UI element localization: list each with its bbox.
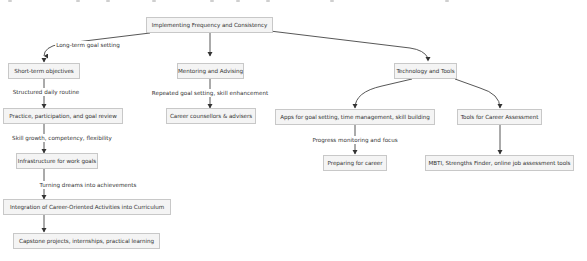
node-mentoring: Mentoring and Advising (177, 63, 244, 79)
node-mbti-tools: MBTI, Strengths Finder, online job asses… (425, 155, 574, 171)
flowchart: Implementing Frequency and Consistency S… (0, 0, 587, 261)
edge-tech-apps (355, 79, 412, 108)
edge-label-repeated-goal: Repeated goal setting, skill enhancement (151, 89, 269, 97)
edges-layer (0, 0, 587, 261)
node-capstone: Capstone projects, internships, practica… (13, 233, 160, 249)
node-preparing-for-career: Preparing for career (323, 155, 387, 171)
node-technology-tools: Technology and Tools (394, 63, 457, 79)
edge-label-long-term: Long-term goal setting (55, 41, 121, 49)
node-apps: Apps for goal setting, time management, … (275, 109, 435, 125)
edge-label-progress: Progress monitoring and focus (311, 136, 398, 144)
node-integration: Integration of Career-Oriented Activitie… (3, 199, 171, 215)
edge-label-skill-growth: Skill growth, competency, flexibility (11, 134, 113, 142)
edge-label-structured-routine: Structured daily routine (12, 88, 80, 96)
node-career-counsellors: Career counsellors & advisers (166, 108, 256, 124)
edge-label-dreams: Turning dreams into achievements (39, 181, 138, 189)
edge-root-tech (270, 31, 428, 58)
node-root: Implementing Frequency and Consistency (146, 17, 273, 33)
node-infrastructure: Infrastructure for work goals (16, 153, 98, 169)
edge-tech-assessment (455, 79, 500, 108)
node-short-term-objectives: Short-term objectives (8, 63, 80, 79)
node-practice-participation: Practice, participation, and goal review (3, 108, 123, 124)
node-career-assessment-tools: Tools for Career Assessment (457, 109, 542, 125)
